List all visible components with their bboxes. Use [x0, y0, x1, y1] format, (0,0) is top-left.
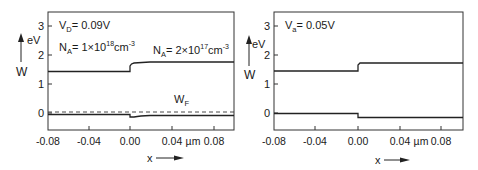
left-vd-annotation: VD= 0.09V [59, 19, 111, 34]
right-x-unit: µm [414, 135, 429, 147]
left-ytick-0: 0 [38, 107, 44, 119]
right-xtick-008: 0.08 [431, 135, 452, 147]
left-na2-annotation: NA= 2×1017cm-3 [153, 43, 229, 59]
left-conduction-band-curve [48, 62, 234, 72]
right-ytick-2: 2 [264, 49, 270, 61]
left-y-unit: eV [27, 34, 41, 46]
band-diagram-figure: 3 2 1 0 eV W -0.08 -0.04 0.00 0.04 µm 0.… [0, 0, 478, 170]
left-y-ticks [48, 26, 52, 113]
right-x-ticks [315, 126, 441, 130]
left-wf-label: WF [174, 93, 189, 108]
left-ytick-3: 3 [38, 20, 44, 32]
right-x-arrow-icon [384, 158, 410, 163]
right-y-ticks [274, 26, 278, 113]
left-y-label: W [16, 65, 28, 79]
left-ytick-1: 1 [38, 78, 44, 90]
left-x-unit: µm [186, 135, 201, 147]
left-xtick-000: 0.00 [120, 135, 141, 147]
right-conduction-band-curve [274, 63, 463, 71]
right-y-label: W [244, 68, 256, 82]
left-x-ticks [89, 126, 214, 130]
left-x-arrow-icon [156, 156, 184, 161]
left-xtick-004: 0.04 [162, 135, 183, 147]
right-ytick-0: 0 [264, 107, 270, 119]
right-ytick-3: 3 [264, 20, 270, 32]
right-xtick-m004: -0.04 [303, 135, 327, 147]
left-x-label: x [147, 152, 153, 164]
right-y-unit: eV [252, 38, 266, 50]
left-xtick-008: 0.08 [204, 135, 225, 147]
left-panel: 3 2 1 0 eV W -0.08 -0.04 0.00 0.04 µm 0.… [16, 12, 234, 164]
left-ytick-2: 2 [38, 49, 44, 61]
right-x-label: x [375, 154, 381, 166]
right-va-annotation: Va= 0.05V [285, 19, 335, 34]
right-panel: 3 2 1 0 eV W -0.08 -0.04 0.00 0.04 µm 0.… [244, 12, 463, 166]
right-xtick-004: 0.04 [390, 135, 411, 147]
left-xtick-m008: -0.08 [36, 135, 60, 147]
left-y-arrow-icon [18, 33, 24, 62]
right-ytick-1: 1 [264, 78, 270, 90]
left-xtick-m004: -0.04 [77, 135, 101, 147]
right-valence-band-curve [274, 114, 463, 118]
left-na1-annotation: NA= 1×1018cm-3 [59, 40, 135, 56]
left-valence-band-curve [48, 115, 234, 118]
right-xtick-000: 0.00 [348, 135, 369, 147]
right-xtick-m008: -0.08 [262, 135, 286, 147]
